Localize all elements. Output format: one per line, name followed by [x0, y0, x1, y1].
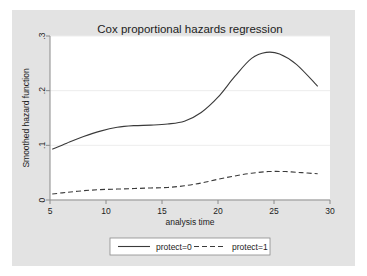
x-tick-label: 15: [157, 206, 167, 216]
legend-label-protect-0: protect=0: [156, 242, 192, 252]
y-axis-title: Smoothed hazard function: [21, 68, 31, 168]
x-tick-label: 30: [325, 206, 335, 216]
x-axis-title: analysis time: [165, 217, 214, 227]
x-tick-label: 25: [269, 206, 279, 216]
chart-canvas: Cox proportional hazards regression 5101…: [12, 10, 355, 266]
figure-panel: Cox proportional hazards regression 5101…: [12, 10, 355, 266]
y-tick-label: 0: [37, 197, 47, 202]
x-tick-label: 20: [213, 206, 223, 216]
chart-legend: protect=0 protect=1: [110, 238, 270, 255]
x-tick-label: 10: [101, 206, 111, 216]
plot-area-background: [50, 36, 330, 200]
y-tick-label: .3: [37, 32, 47, 39]
y-tick-label: .1: [37, 142, 47, 149]
y-tick-label: .2: [37, 87, 47, 94]
legend-label-protect-1: protect=1: [232, 242, 268, 252]
x-tick-label: 5: [48, 206, 53, 216]
chart-title: Cox proportional hazards regression: [97, 23, 282, 35]
